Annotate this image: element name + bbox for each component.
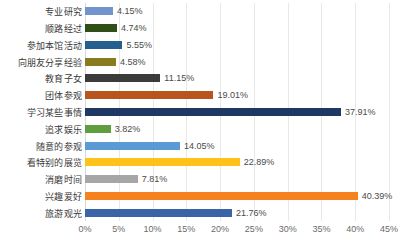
- bar-track: 4.15%: [85, 7, 389, 15]
- value-label: 14.05%: [184, 141, 215, 151]
- bar-row: 追求娱乐3.82%: [0, 120, 401, 137]
- category-label: 参加本馆活动: [27, 38, 82, 51]
- bar-row: 教育子女11.15%: [0, 70, 401, 87]
- bar[interactable]: [85, 192, 358, 200]
- x-tick-label: 0%: [78, 224, 91, 234]
- x-tick-label: 25%: [245, 224, 263, 234]
- bar-rows-container: 专业研究4.15%顺路经过4.74%参加本馆活动5.55%向朋友分享经验4.58…: [0, 3, 401, 221]
- category-label: 向朋友分享经验: [18, 55, 82, 68]
- bar[interactable]: [85, 108, 341, 116]
- bar-row: 随意的参观14.05%: [0, 137, 401, 154]
- bar-track: 4.58%: [85, 58, 389, 66]
- value-label: 22.89%: [244, 157, 275, 167]
- horizontal-bar-chart: 专业研究4.15%顺路经过4.74%参加本馆活动5.55%向朋友分享经验4.58…: [0, 0, 401, 244]
- x-tick-label: 10%: [144, 224, 162, 234]
- bar-track: 7.81%: [85, 175, 389, 183]
- category-label: 看特别的展览: [27, 156, 82, 169]
- bar[interactable]: [85, 142, 180, 150]
- bar[interactable]: [85, 7, 113, 15]
- bar-track: 37.91%: [85, 108, 389, 116]
- x-tick-label: 35%: [312, 224, 330, 234]
- bar-track: 4.74%: [85, 24, 389, 32]
- category-label: 随意的参观: [36, 139, 82, 152]
- value-label: 3.82%: [115, 124, 141, 134]
- bar-row: 学习某些事情37.91%: [0, 104, 401, 121]
- x-tick-label: 45%: [380, 224, 398, 234]
- bar[interactable]: [85, 41, 122, 49]
- category-label: 顺路经过: [45, 22, 82, 35]
- x-tick-label: 30%: [279, 224, 297, 234]
- bar-row: 兴趣爱好40.39%: [0, 187, 401, 204]
- bar-row: 团体参观19.01%: [0, 87, 401, 104]
- bar-row: 消磨时间7.81%: [0, 171, 401, 188]
- bar[interactable]: [85, 175, 138, 183]
- bar-track: 14.05%: [85, 142, 389, 150]
- bar[interactable]: [85, 58, 116, 66]
- bar-row: 参加本馆活动5.55%: [0, 37, 401, 54]
- category-label: 消磨时间: [45, 173, 82, 186]
- x-tick-label: 40%: [346, 224, 364, 234]
- bar[interactable]: [85, 91, 213, 99]
- bar-track: 21.76%: [85, 209, 389, 217]
- x-tick-label: 15%: [177, 224, 195, 234]
- bar[interactable]: [85, 74, 160, 82]
- category-label: 兴趣爱好: [45, 189, 82, 202]
- category-label: 旅游观光: [45, 206, 82, 219]
- category-label: 团体参观: [45, 89, 82, 102]
- value-label: 7.81%: [142, 174, 168, 184]
- value-label: 5.55%: [126, 40, 152, 50]
- bar[interactable]: [85, 209, 232, 217]
- bar-row: 向朋友分享经验4.58%: [0, 53, 401, 70]
- value-label: 11.15%: [164, 73, 194, 83]
- x-tick-label: 5%: [112, 224, 125, 234]
- bar-track: 19.01%: [85, 91, 389, 99]
- bar[interactable]: [85, 158, 240, 166]
- bar[interactable]: [85, 24, 117, 32]
- bar-track: 5.55%: [85, 41, 389, 49]
- bar-track: 3.82%: [85, 125, 389, 133]
- value-label: 4.74%: [121, 23, 147, 33]
- bar-track: 11.15%: [85, 74, 389, 82]
- category-label: 追求娱乐: [45, 122, 82, 135]
- bar-track: 22.89%: [85, 158, 389, 166]
- value-label: 40.39%: [362, 191, 393, 201]
- value-label: 19.01%: [217, 90, 248, 100]
- value-label: 4.15%: [117, 6, 143, 16]
- category-label: 学习某些事情: [27, 105, 82, 118]
- bar[interactable]: [85, 125, 111, 133]
- x-axis: 0%5%10%15%20%25%30%35%40%45%: [85, 224, 389, 240]
- category-label: 专业研究: [45, 5, 82, 18]
- bar-row: 看特别的展览22.89%: [0, 154, 401, 171]
- x-tick-label: 20%: [211, 224, 229, 234]
- value-label: 4.58%: [120, 57, 146, 67]
- bar-row: 顺路经过4.74%: [0, 20, 401, 37]
- bar-row: 专业研究4.15%: [0, 3, 401, 20]
- value-label: 21.76%: [236, 208, 267, 218]
- value-label: 37.91%: [345, 107, 376, 117]
- bar-row: 旅游观光21.76%: [0, 204, 401, 221]
- category-label: 教育子女: [45, 72, 82, 85]
- bar-track: 40.39%: [85, 192, 389, 200]
